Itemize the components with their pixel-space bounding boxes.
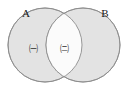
region-label-intersection: ㈡ [60,43,69,54]
set-b-label: B [101,7,108,19]
venn-diagram-figure: A B ㈠ ㈡ [0,0,127,89]
set-a-label: A [22,7,30,19]
region-label-a-only: ㈠ [29,43,38,54]
venn-diagram-canvas: A B ㈠ ㈡ [0,0,127,89]
